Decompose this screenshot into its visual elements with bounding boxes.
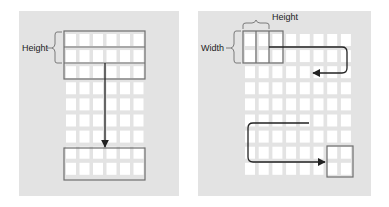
grid-cell	[327, 82, 337, 94]
grid-cell	[314, 163, 324, 175]
grid-cell	[272, 50, 282, 62]
grid-cell	[134, 163, 144, 175]
grid-cell	[327, 98, 337, 110]
grid-cell	[314, 50, 324, 62]
grid-cell	[272, 66, 282, 78]
grid-cell	[300, 34, 310, 46]
grid-cell	[245, 115, 255, 127]
grid-cell	[327, 115, 337, 127]
grid-cell	[66, 82, 76, 94]
grid-cell	[80, 50, 90, 62]
grid-cell	[93, 50, 103, 62]
grid-cell	[134, 82, 144, 94]
grid-cell	[341, 50, 351, 62]
grid-cell	[259, 82, 269, 94]
grid-cell	[120, 66, 130, 78]
grid-cell	[272, 147, 282, 159]
grid-cell	[93, 163, 103, 175]
grid-cell	[93, 34, 103, 46]
grid-cell	[66, 115, 76, 127]
left-target-box	[64, 148, 145, 180]
grid-cell	[341, 163, 351, 175]
grid-cell	[327, 34, 337, 46]
grid-cell	[272, 163, 282, 175]
grid-cell	[286, 98, 296, 110]
grid-cell	[120, 163, 130, 175]
grid-cell	[327, 147, 337, 159]
grid-cell	[120, 34, 130, 46]
grid-cell	[272, 82, 282, 94]
grid-cell	[327, 50, 337, 62]
grid-cell	[120, 50, 130, 62]
grid-cell	[259, 131, 269, 143]
grid-cell	[245, 66, 255, 78]
grid-cell	[120, 131, 130, 143]
grid-cell	[259, 50, 269, 62]
grid-cell	[327, 66, 337, 78]
grid-cell	[286, 147, 296, 159]
grid-cell	[286, 115, 296, 127]
right-width-bracket	[231, 31, 241, 63]
grid-cell	[259, 66, 269, 78]
grid-cell	[341, 82, 351, 94]
grid-cell	[80, 98, 90, 110]
grid-cell	[259, 147, 269, 159]
grid-cell	[314, 131, 324, 143]
left-height-label: Height	[22, 44, 48, 53]
grid-cell	[341, 131, 351, 143]
grid-cell	[134, 115, 144, 127]
grid-cell	[134, 131, 144, 143]
grid-cell	[80, 66, 90, 78]
grid-cell	[245, 98, 255, 110]
grid-cell	[286, 34, 296, 46]
grid-cell	[107, 131, 117, 143]
grid-cell	[300, 50, 310, 62]
grid-cell	[314, 66, 324, 78]
grid-cell	[107, 115, 117, 127]
grid-cell	[300, 115, 310, 127]
grid-cell	[300, 131, 310, 143]
grid-cell	[93, 115, 103, 127]
grid-cell	[245, 34, 255, 46]
grid-cell	[134, 66, 144, 78]
grid-cell	[314, 98, 324, 110]
grid-cell	[341, 98, 351, 110]
grid-cell	[259, 115, 269, 127]
grid-cell	[327, 131, 337, 143]
grid-cell	[314, 115, 324, 127]
grid-cell	[93, 82, 103, 94]
right-width-label: Width	[201, 44, 224, 53]
grid-cell	[245, 82, 255, 94]
grid-cell	[286, 82, 296, 94]
grid-cell	[107, 163, 117, 175]
grid-cell	[107, 98, 117, 110]
grid-cell	[327, 163, 337, 175]
grid-cell	[300, 163, 310, 175]
grid-cell	[300, 147, 310, 159]
grid-cell	[66, 98, 76, 110]
grid-cell	[245, 131, 255, 143]
grid-cell	[66, 34, 76, 46]
grid-cell	[286, 66, 296, 78]
diagram-canvas	[0, 0, 389, 207]
grid-cell	[245, 50, 255, 62]
grid-cell	[120, 82, 130, 94]
grid-cell	[120, 115, 130, 127]
grid-cell	[341, 34, 351, 46]
grid-cell	[286, 131, 296, 143]
grid-cell	[107, 66, 117, 78]
grid-cell	[300, 98, 310, 110]
grid-cell	[245, 147, 255, 159]
grid-cell	[134, 34, 144, 46]
grid-cell	[314, 82, 324, 94]
grid-cell	[93, 131, 103, 143]
grid-cell	[80, 163, 90, 175]
grid-cell	[107, 34, 117, 46]
grid-cell	[314, 147, 324, 159]
grid-cell	[272, 131, 282, 143]
right-grid	[245, 34, 351, 175]
grid-cell	[245, 163, 255, 175]
grid-cell	[341, 115, 351, 127]
grid-cell	[80, 34, 90, 46]
grid-cell	[66, 66, 76, 78]
